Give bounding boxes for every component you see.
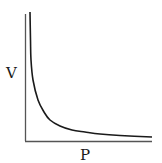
pressure-volume-curve (30, 12, 152, 137)
x-axis-label: P (80, 146, 90, 163)
y-axis-label: V (5, 64, 18, 82)
boyle-law-chart: V P (0, 0, 162, 163)
